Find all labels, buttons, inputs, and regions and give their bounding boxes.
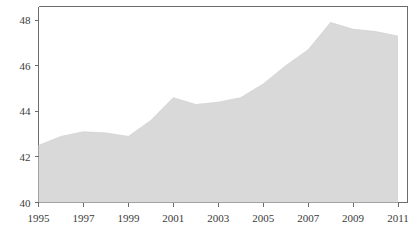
chart-container: 4042444648 19951997199920012003200520072… xyxy=(0,0,420,243)
x-tick-label: 2007 xyxy=(297,212,320,224)
x-tick-label: 1995 xyxy=(28,212,51,224)
y-tick-label: 42 xyxy=(20,151,31,163)
x-tick-label: 2001 xyxy=(162,212,184,224)
x-tick-label: 2003 xyxy=(207,212,230,224)
x-tick-label: 1999 xyxy=(117,212,140,224)
y-tick-label: 40 xyxy=(20,197,32,209)
y-tick-label: 46 xyxy=(20,60,32,72)
area-chart: 4042444648 19951997199920012003200520072… xyxy=(0,0,420,243)
x-tick-label: 2011 xyxy=(387,212,409,224)
y-tick-label: 44 xyxy=(20,105,32,117)
x-tick-label: 2009 xyxy=(342,212,365,224)
y-tick-label: 48 xyxy=(20,14,32,26)
x-tick-label: 2005 xyxy=(252,212,275,224)
x-tick-label: 1997 xyxy=(72,212,95,224)
